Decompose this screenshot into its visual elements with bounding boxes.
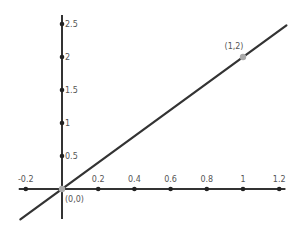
x-tick-dot: [241, 187, 246, 192]
point-label: (0,0): [65, 195, 84, 204]
x-tick-label: 0.2: [92, 175, 105, 184]
point-marker: [240, 54, 246, 60]
x-tick-dot: [132, 187, 137, 192]
chart-canvas: -0.20.20.40.60.811.20.511.522.5 (0,0)(1,…: [0, 0, 299, 229]
x-tick-dot: [24, 187, 29, 192]
x-tick-dot: [205, 187, 210, 192]
y-tick-dot: [60, 88, 65, 93]
x-tick-dot: [96, 187, 101, 192]
y-tick-dot: [60, 154, 65, 159]
x-tick-dot: [277, 187, 282, 192]
point-label: (1,2): [225, 42, 244, 51]
x-tick-label: 1.2: [273, 175, 286, 184]
x-tick-dot: [168, 187, 173, 192]
x-tick-label: -0.2: [18, 175, 34, 184]
x-tick-label: 0.6: [164, 175, 177, 184]
y-tick-label: 0.5: [65, 152, 78, 161]
y-tick-label: 1: [65, 119, 70, 128]
y-tick-label: 2.5: [65, 20, 78, 29]
x-tick-label: 0.4: [128, 175, 141, 184]
x-tick-label: 1: [240, 175, 245, 184]
y-tick-dot: [60, 55, 65, 60]
y-tick-dot: [60, 121, 65, 126]
x-tick-label: 0.8: [200, 175, 213, 184]
y-tick-label: 2: [65, 53, 70, 62]
y-tick-dot: [60, 22, 65, 27]
y-tick-label: 1.5: [65, 86, 78, 95]
axes: -0.20.20.40.60.811.20.511.522.5: [18, 15, 286, 219]
point-marker: [59, 186, 65, 192]
